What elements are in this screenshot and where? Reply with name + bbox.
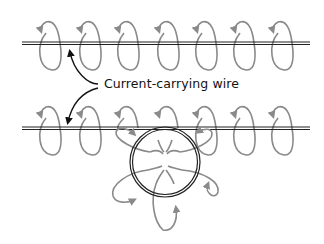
field-loop-icon: [272, 22, 293, 70]
field-loop-icon: [234, 22, 255, 70]
field-loop-icon: [159, 107, 178, 128]
field-loop-icon: [196, 22, 217, 70]
field-loop-icon: [272, 107, 293, 155]
loop-field-lines: [113, 128, 218, 230]
top-field-loops: [40, 22, 293, 70]
magnetic-field-diagram: [0, 0, 324, 244]
pointer-arrow-bottom-icon: [68, 88, 98, 122]
field-loop-icon: [80, 22, 101, 70]
wire-label: Current-carrying wire: [104, 76, 239, 91]
label-pointer-arrows: [68, 52, 98, 122]
field-loop-icon: [80, 107, 101, 155]
field-loop-icon: [40, 22, 61, 70]
field-loop-icon: [40, 107, 61, 155]
field-loop-icon: [118, 22, 139, 70]
field-loop-icon: [234, 107, 255, 155]
bottom-field-loops: [40, 107, 293, 155]
pointer-arrow-top-icon: [70, 52, 98, 84]
field-loop-icon: [158, 22, 179, 70]
wire-loop: [130, 127, 200, 197]
straight-wire-top: [22, 42, 310, 45]
